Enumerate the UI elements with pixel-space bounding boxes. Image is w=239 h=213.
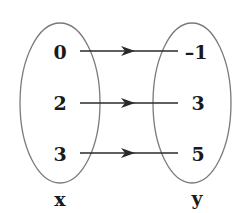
range-label: y	[190, 187, 203, 209]
range-value: 5	[191, 143, 204, 165]
domain-value: 0	[53, 41, 66, 63]
range-value: 3	[191, 92, 204, 114]
domain-label: x	[54, 188, 66, 210]
range-value: –1	[185, 41, 208, 63]
domain-value: 3	[53, 143, 66, 165]
domain-value: 2	[53, 92, 66, 114]
mapping-diagram: 0 2 3 –1 3 5 x y	[0, 0, 239, 213]
mapping-arrow	[80, 98, 178, 108]
